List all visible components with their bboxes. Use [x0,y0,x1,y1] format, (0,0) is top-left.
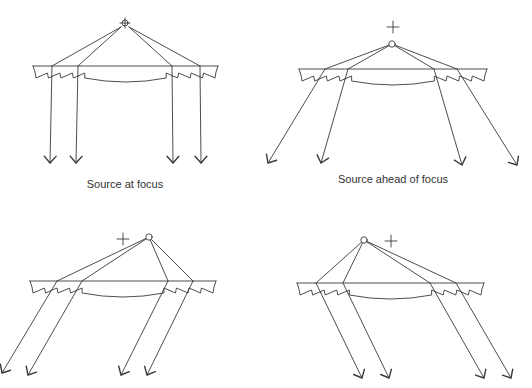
light-source-icon [361,237,367,243]
arrowhead-icon [266,154,276,163]
arrowhead-icon [502,369,512,378]
focus-crosshair-icon [120,18,130,28]
arrowhead-icon [119,366,130,375]
fresnel-lens [297,283,484,299]
light-rays [316,240,513,378]
caption-ahead-of-focus: Source ahead of focus [338,173,448,185]
arrowhead-icon [26,366,36,375]
light-rays [44,27,207,163]
fresnel-lens [33,66,218,82]
fresnel-lens-diagram [0,0,532,388]
light-rays [266,44,518,165]
arrowhead-icon [354,369,365,378]
panel-ahead-of-focus [266,21,518,165]
arrowhead-icon [475,369,485,378]
light-rays [0,237,193,375]
fresnel-lens [30,281,216,297]
focus-plus-icon [117,233,129,245]
arrowhead-icon [145,366,156,375]
focus-plus-icon [387,21,399,33]
arrowhead-icon [508,156,518,165]
arrowhead-icon [0,364,10,373]
arrowhead-icon [381,369,392,378]
panel-off-axis-left [297,235,513,378]
panel-at-focus [33,18,218,163]
focus-plus-icon [385,235,397,247]
light-source-icon [389,41,395,47]
caption-at-focus: Source at focus [87,178,163,190]
panel-off-axis-right [0,233,216,375]
light-source-icon [146,234,152,240]
